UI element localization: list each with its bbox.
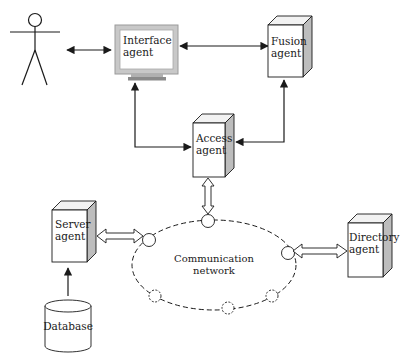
server-agent-label-1: Server bbox=[55, 218, 92, 230]
access-network-hollow-arrow bbox=[202, 178, 214, 214]
network-port-left bbox=[143, 234, 156, 247]
network-port-right bbox=[282, 247, 295, 260]
interface-agent-label-1: Interface bbox=[123, 34, 172, 46]
directory-agent-label-2: agent bbox=[349, 243, 380, 255]
access-interface-arrow bbox=[135, 83, 191, 147]
network-port-top bbox=[202, 215, 215, 228]
server-agent-node: Server agent bbox=[52, 201, 96, 262]
interface-agent-node: Interface agent bbox=[115, 25, 178, 81]
database-node: Database bbox=[43, 300, 93, 352]
network-port-bottom-right bbox=[266, 290, 278, 302]
network-port-bottom bbox=[222, 302, 234, 314]
fusion-agent-label-2: agent bbox=[271, 47, 302, 59]
server-agent-label-2: agent bbox=[55, 230, 86, 242]
directory-network-hollow-arrow bbox=[293, 244, 347, 258]
access-agent-node: Access agent bbox=[193, 114, 234, 177]
access-agent-label-2: agent bbox=[196, 144, 227, 156]
network-label-1: Communication bbox=[174, 253, 255, 264]
access-agent-label-1: Access bbox=[195, 132, 232, 144]
directory-agent-label-1: Directory bbox=[349, 231, 399, 243]
fusion-agent-label-1: Fusion bbox=[271, 35, 307, 47]
fusion-agent-node: Fusion agent bbox=[268, 16, 312, 77]
network-label-2: network bbox=[193, 265, 236, 276]
access-fusion-arrow bbox=[236, 80, 284, 142]
user-actor-icon bbox=[10, 14, 60, 86]
agent-architecture-diagram: Interface agent Fusion agent Access agen… bbox=[0, 0, 401, 360]
communication-network-node: Communication network bbox=[132, 215, 296, 315]
network-port-bottom-left bbox=[149, 290, 161, 302]
interface-agent-label-2: agent bbox=[123, 46, 154, 58]
database-label: Database bbox=[43, 320, 93, 332]
directory-agent-node: Directory agent bbox=[348, 214, 399, 277]
server-network-hollow-arrow bbox=[97, 229, 143, 243]
